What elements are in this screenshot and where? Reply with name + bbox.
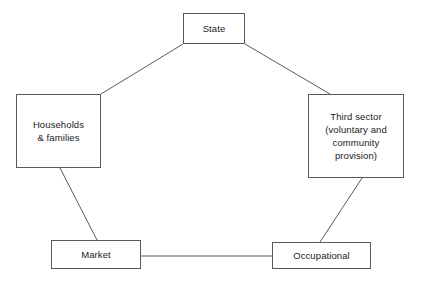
node-third-sector[interactable]: Third sector (voluntary and community pr… bbox=[308, 94, 404, 178]
node-state-label: State bbox=[184, 22, 244, 35]
node-state[interactable]: State bbox=[183, 13, 245, 44]
node-third-sector-label: Third sector (voluntary and community pr… bbox=[309, 110, 403, 163]
connector-state-third-sector bbox=[245, 44, 330, 94]
welfare-mix-diagram: State Households & families Third sector… bbox=[0, 0, 421, 286]
connector-households-market bbox=[60, 168, 97, 240]
connector-third-sector-occupational bbox=[320, 178, 362, 242]
node-households-families[interactable]: Households & families bbox=[16, 94, 101, 168]
node-occupational[interactable]: Occupational bbox=[272, 242, 371, 269]
node-households-families-label: Households & families bbox=[17, 118, 100, 144]
node-occupational-label: Occupational bbox=[273, 249, 370, 262]
node-market-label: Market bbox=[52, 248, 140, 261]
node-market[interactable]: Market bbox=[51, 240, 141, 269]
connector-state-households bbox=[101, 44, 183, 94]
